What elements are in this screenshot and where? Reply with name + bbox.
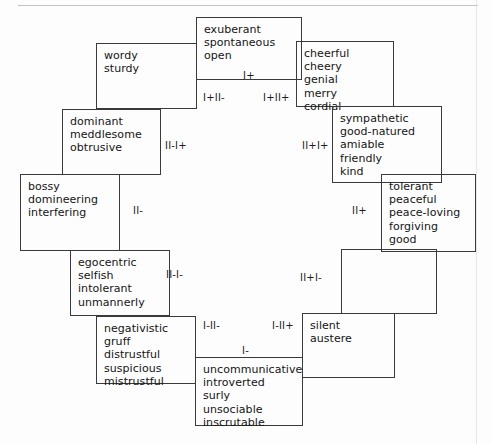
segment-label-i-minus: I- — [242, 345, 249, 356]
node-negativistic: negativistic gruff distrustful suspiciou… — [96, 316, 196, 384]
segment-label-ii-minus-i-plus: II-I+ — [165, 140, 187, 151]
segment-label-i-minus-ii-plus: I-II+ — [272, 320, 294, 331]
segment-label-i-plus-ii-minus: I+II- — [203, 92, 225, 103]
node-bossy: bossy domineering interfering — [20, 174, 120, 251]
segment-label-ii-plus-i-minus: II+I- — [300, 272, 322, 283]
segment-label-ii-minus-i-minus: II-I- — [166, 269, 183, 280]
node-sympathetic: sympathetic good-natured amiable friendl… — [332, 106, 442, 183]
segment-label-i-plus: I+ — [243, 70, 255, 81]
segment-label-i-minus-ii-minus: I-II- — [203, 320, 220, 331]
node-egocentric: egocentric selfish intolerant unmannerly — [70, 250, 170, 316]
node-silent: silent austere — [302, 313, 395, 378]
node-cheerful: cheerful cheery genial merry cordial — [296, 41, 394, 107]
segment-label-ii-minus: II- — [133, 205, 143, 216]
page-edge-line-right — [476, 0, 477, 444]
diagram-canvas: exuberant spontaneous open cheerful chee… — [0, 0, 492, 444]
segment-label-ii-plus-i-plus: II+I+ — [302, 140, 329, 151]
node-blank-right — [341, 249, 437, 314]
node-tolerant: tolerant peaceful peace-loving forgiving… — [381, 174, 476, 252]
node-dominant: dominant meddlesome obtrusive — [62, 109, 161, 175]
page-edge-line-top — [18, 5, 478, 6]
segment-label-ii-plus: II+ — [352, 205, 367, 216]
node-uncommunicative: uncommunicative introverted surly unsoci… — [195, 357, 303, 426]
segment-label-i-plus-ii-plus: I+II+ — [263, 92, 290, 103]
node-wordy: wordy sturdy — [96, 43, 197, 109]
